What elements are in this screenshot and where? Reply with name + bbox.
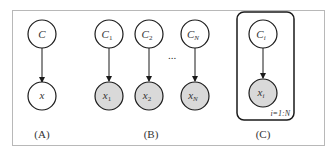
panel-a: C x (A)	[28, 20, 56, 141]
node-c: C	[28, 20, 56, 48]
diagram-frame	[13, 11, 325, 146]
plate-label: i=1:N	[270, 109, 290, 118]
panel-a-label: (A)	[34, 128, 50, 141]
node-x2: x2	[135, 82, 163, 110]
panel-b-label: (B)	[144, 128, 159, 141]
node-cn: CN	[181, 20, 209, 48]
panel-b: C1 C2 ... CN x1 x2 xN (B)	[95, 20, 209, 141]
graphical-model-diagram: C x (A) C1 C2 ... CN	[0, 0, 335, 158]
node-c2: C2	[135, 20, 163, 48]
node-xn: xN	[181, 82, 209, 110]
node-xi: xi	[249, 79, 277, 107]
node-x-label: x	[39, 89, 45, 101]
node-c1: C1	[95, 20, 123, 48]
node-x1: x1	[95, 82, 123, 110]
ellipsis: ...	[168, 49, 177, 61]
node-c-label: C	[38, 28, 46, 40]
panel-c-label: (C)	[256, 128, 271, 141]
node-ci: Ci	[249, 20, 277, 48]
node-x: x	[28, 82, 56, 110]
panel-c: Ci xi i=1:N (C)	[237, 12, 294, 141]
